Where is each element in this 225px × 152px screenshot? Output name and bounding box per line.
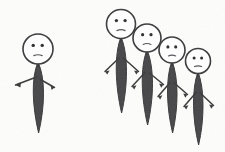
paper-grain-overlay xyxy=(0,0,225,152)
illustration-canvas xyxy=(0,0,225,152)
stick-figure-scene xyxy=(0,0,225,152)
